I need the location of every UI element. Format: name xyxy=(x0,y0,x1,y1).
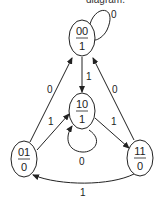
node-00: 00 1 xyxy=(69,20,95,56)
edge-11-to-01 xyxy=(33,174,134,183)
node-10-state: 10 xyxy=(76,98,88,110)
label-11-to-00: 0 xyxy=(112,84,118,95)
node-10: 10 1 xyxy=(69,93,95,129)
node-10-output: 1 xyxy=(79,113,85,125)
label-00-to-10: 1 xyxy=(86,71,92,82)
node-11: 11 0 xyxy=(127,140,153,176)
edge-11-to-00 xyxy=(93,58,134,140)
edge-10-self xyxy=(68,126,97,152)
node-00-output: 1 xyxy=(79,40,85,52)
label-00-self: 0 xyxy=(111,9,117,20)
label-01-to-10: 1 xyxy=(48,116,54,127)
node-01-state: 01 xyxy=(18,146,30,158)
state-diagram: 00 1 10 1 01 0 11 0 0 1 0 0 1 0 1 1 xyxy=(0,0,159,197)
node-00-state: 00 xyxy=(76,25,88,37)
node-01: 01 0 xyxy=(11,141,37,177)
edge-01-to-00 xyxy=(30,58,72,142)
label-11-to-01: 1 xyxy=(80,187,86,197)
label-10-self: 0 xyxy=(79,156,85,167)
node-11-output: 0 xyxy=(137,160,143,172)
node-11-state: 11 xyxy=(134,145,145,157)
label-10-to-11: 1 xyxy=(111,116,117,127)
node-01-output: 0 xyxy=(21,161,27,173)
label-01-to-00: 0 xyxy=(47,84,53,95)
